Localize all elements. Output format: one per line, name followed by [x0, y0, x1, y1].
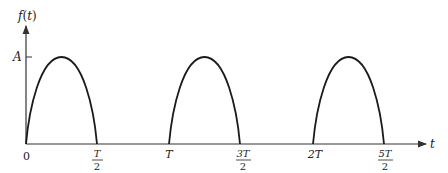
svg-text:3T: 3T: [236, 148, 250, 159]
tick-T-over-2: T 2: [92, 148, 103, 172]
arch-1: [26, 57, 97, 144]
half-wave-rectified-diagram: f(t) A t 0 T 2 T 3T 2 2T 5T 2: [0, 0, 448, 173]
tick-5T-over-2: 5T 2: [378, 148, 393, 172]
svg-text:2: 2: [382, 161, 388, 172]
tick-T: T: [165, 148, 174, 161]
svg-text:5T: 5T: [378, 148, 392, 159]
tick-0: 0: [23, 150, 30, 163]
amplitude-label: A: [12, 50, 22, 64]
arch-3: [313, 57, 384, 144]
svg-text:2: 2: [94, 161, 100, 172]
svg-text:2: 2: [240, 161, 246, 172]
tick-3T-over-2: 3T 2: [236, 148, 251, 172]
arch-2: [169, 57, 240, 144]
y-axis-label: f(t): [17, 9, 37, 23]
svg-text:T: T: [94, 148, 102, 159]
x-axis-label: t: [430, 137, 435, 151]
tick-2T: 2T: [307, 148, 324, 161]
